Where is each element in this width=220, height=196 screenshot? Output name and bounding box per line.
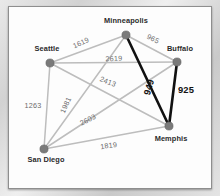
edge-seattle-sandiego — [44, 63, 50, 149]
city-label-memphis: Memphis — [155, 134, 188, 143]
edge-weight-seattle-sandiego: 1263 — [25, 101, 42, 110]
edge-weight-buffalo-memphis: 925 — [178, 84, 194, 95]
edge-weight-sandiego-memphis: 1819 — [100, 140, 118, 151]
city-label-sandiego: San Diego — [27, 155, 64, 164]
edge-weight-seattle-memphis: 2413 — [98, 74, 117, 89]
city-label-minneapolis: Minneapolis — [104, 16, 148, 25]
city-label-buffalo: Buffalo — [167, 44, 194, 53]
edge-weight-seattle-minneapolis: 1619 — [71, 35, 90, 50]
edges-layer — [44, 35, 177, 149]
edge-weight-seattle-buffalo: 2619 — [105, 54, 122, 64]
city-label-seattle: Seattle — [35, 44, 60, 53]
graph-canvas: 1619965261924131263198126031819949925 Se… — [9, 7, 211, 188]
edge-weight-minneapolis-buffalo: 965 — [145, 32, 160, 46]
node-sandiego — [40, 145, 48, 153]
node-memphis — [165, 122, 173, 130]
edge-buffalo-memphis — [169, 62, 177, 126]
edge-weight-sandiego-buffalo: 2603 — [78, 112, 97, 128]
node-minneapolis — [122, 31, 130, 39]
node-buffalo — [173, 58, 181, 66]
node-seattle — [46, 59, 54, 67]
graph-figure-panel: 1619965261924131263198126031819949925 Se… — [8, 6, 212, 189]
